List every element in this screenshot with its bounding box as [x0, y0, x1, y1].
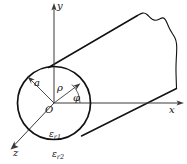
phi-label: φ [73, 93, 80, 103]
inner-permittivity-label: εr1 [49, 130, 61, 139]
cylinder-bottom-edge [82, 89, 177, 137]
z-axis-label: z [13, 148, 18, 158]
x-axis-label: x [169, 105, 175, 115]
cylinder-break-edge [138, 13, 177, 88]
rho-label: ρ [57, 83, 63, 93]
outer-permittivity-label: εr2 [52, 150, 64, 159]
origin-label: O [45, 105, 53, 115]
cylinder-body [49, 13, 177, 136]
radius-indicator [28, 77, 55, 104]
cylinder-top-edge [49, 16, 138, 68]
inner-permittivity-subscript: r1 [54, 133, 61, 141]
outer-permittivity-subscript: r2 [57, 153, 64, 161]
figure-canvas: y x z O a ρ φ εr1 εr2 [0, 0, 187, 164]
y-axis-label: y [57, 1, 63, 11]
radius-label: a [34, 78, 40, 88]
diagram-svg [0, 0, 187, 164]
